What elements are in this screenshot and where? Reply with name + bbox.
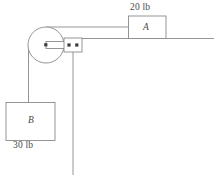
block-b-label: B xyxy=(28,116,34,126)
connecting-rod xyxy=(46,42,65,49)
block-a-label: A xyxy=(143,23,149,33)
block-b-weight-label: 30 lb xyxy=(13,141,33,151)
collar-pin-right-icon xyxy=(75,43,78,46)
collar-block xyxy=(64,38,82,52)
block-a-weight-label: 20 lb xyxy=(130,3,150,13)
collar-pin-left-icon xyxy=(67,43,70,46)
pulley-block-diagram: 20 lb A 30 lb B xyxy=(0,0,214,175)
pulley-axle-pin-icon xyxy=(44,43,47,46)
